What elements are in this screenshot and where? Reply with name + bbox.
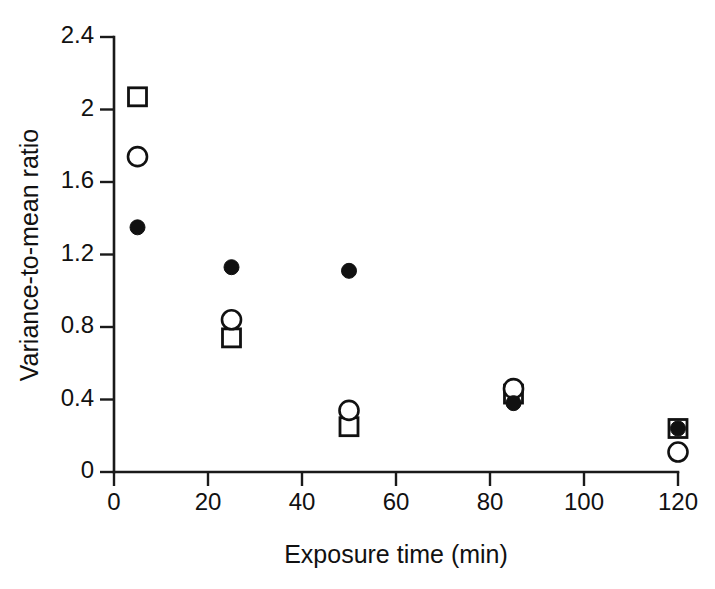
y-axis-title: Variance-to-mean ratio: [15, 129, 43, 381]
x-tick-label: 20: [195, 488, 222, 515]
x-tick-label: 120: [658, 488, 698, 515]
y-tick-label: 1.2: [61, 239, 94, 266]
marker-open-square: [223, 329, 241, 347]
marker-filled-circle: [342, 263, 357, 278]
data-point-layer: [128, 88, 688, 462]
marker-open-square: [129, 88, 147, 106]
y-tick-label: 2.4: [61, 21, 94, 48]
y-tick-label: 2: [81, 94, 94, 121]
series-open-circle: [128, 147, 688, 461]
series-filled-circle: [130, 220, 686, 436]
x-tick-label: 60: [383, 488, 410, 515]
marker-filled-circle: [506, 396, 521, 411]
marker-filled-circle: [671, 421, 686, 436]
x-tick-label: 100: [564, 488, 604, 515]
x-tick-label: 80: [477, 488, 504, 515]
y-axis-ticks: 00.40.81.21.622.4: [61, 21, 114, 483]
x-tick-label: 40: [289, 488, 316, 515]
marker-open-circle: [222, 310, 241, 329]
y-tick-label: 0.8: [61, 311, 94, 338]
marker-open-circle: [669, 443, 688, 462]
figure-container: 00.40.81.21.622.4 020406080100120 Exposu…: [0, 0, 715, 589]
scatter-plot: 00.40.81.21.622.4 020406080100120 Exposu…: [0, 0, 715, 589]
y-tick-label: 1.6: [61, 166, 94, 193]
y-tick-label: 0.4: [61, 384, 94, 411]
x-axis-title: Exposure time (min): [284, 540, 508, 568]
axes-group: [114, 37, 678, 472]
marker-open-circle: [340, 401, 359, 420]
marker-filled-circle: [224, 260, 239, 275]
series-open-square: [129, 88, 688, 438]
y-tick-label: 0: [81, 456, 94, 483]
marker-filled-circle: [130, 220, 145, 235]
x-tick-label: 0: [107, 488, 120, 515]
x-axis-ticks: 020406080100120: [107, 472, 698, 515]
marker-open-circle: [128, 147, 147, 166]
